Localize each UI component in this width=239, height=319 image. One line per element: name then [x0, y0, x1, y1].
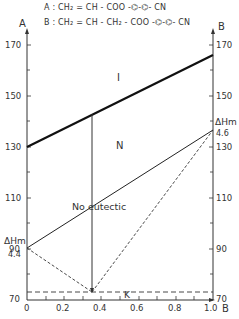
x-tick-0.4: 0.4: [93, 303, 107, 313]
y-tick-right-90: 90: [216, 244, 227, 254]
region-nematic-label: N: [116, 140, 123, 151]
y-tick-right-130: 130: [216, 142, 232, 152]
region-crystal-label: K: [124, 290, 130, 300]
left-axis-arrow-icon: [25, 28, 29, 34]
y-tick-left-130: 130: [5, 142, 21, 152]
clearing-line: [27, 55, 213, 147]
y-tick-left-110: 110: [5, 193, 21, 203]
y-tick-right-170: 170: [216, 40, 232, 50]
x-tick-0.2: 0.2: [56, 303, 70, 313]
phase-diagram: [0, 0, 239, 319]
x-tick-0.6: 0.6: [130, 303, 144, 313]
y-tick-right-110: 110: [216, 193, 232, 203]
x-axis-name: B: [222, 303, 229, 314]
y-tick-left-70: 70: [9, 294, 20, 304]
y-tick-left-150: 150: [5, 91, 21, 101]
x-tick-0: 0: [24, 303, 29, 313]
right-axis-arrow-icon: [211, 28, 215, 34]
liquidus-a-branch: [27, 248, 92, 292]
y-tick-left-170: 170: [5, 40, 21, 50]
no-eutectic-label: No eutectic: [72, 201, 126, 212]
x-axis-arrow-icon: [209, 298, 215, 302]
dh-right-label: ΔHm: [215, 117, 237, 127]
x-tick-1.0: 1.0: [204, 303, 218, 313]
dh-left-value: 4.4: [8, 250, 21, 259]
region-isotropic-label: I: [117, 72, 120, 83]
dh-left-label: ΔHm: [4, 236, 26, 246]
y-tick-right-150: 150: [216, 91, 232, 101]
dh-right-value: 4.6: [216, 129, 229, 138]
x-tick-0.8: 0.8: [168, 303, 182, 313]
